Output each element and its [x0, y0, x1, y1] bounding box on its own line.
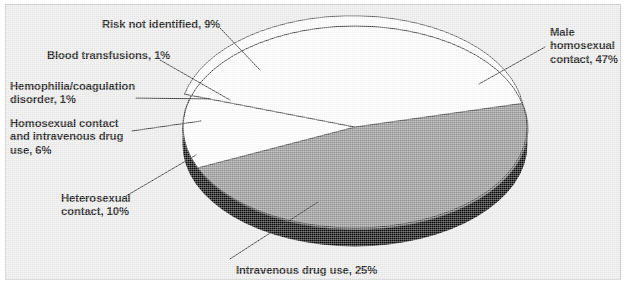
label-blood-transfusions: Blood transfusions, 1% — [47, 49, 170, 62]
figure-root: Risk not identified, 9% Blood transfusio… — [0, 0, 630, 301]
leader-heterosexual-contact — [126, 155, 196, 196]
pie-slices — [183, 16, 528, 230]
label-hemophilia-coagulation-disorder: Hemophilia/coagulation disorder, 1% — [10, 80, 135, 107]
label-risk-not-identified: Risk not identified, 9% — [102, 18, 220, 31]
chart-stage: Risk not identified, 9% Blood transfusio… — [5, 4, 621, 280]
label-heterosexual-contact: Heterosexual contact, 10% — [61, 192, 131, 219]
label-intravenous-drug-use: Intravenous drug use, 25% — [236, 264, 377, 277]
label-male-homosexual-contact: Male homosexual contact, 47% — [550, 26, 621, 66]
label-homosexual-contact-and-ivdu: Homosexual contact and intravenous drug … — [10, 117, 123, 157]
